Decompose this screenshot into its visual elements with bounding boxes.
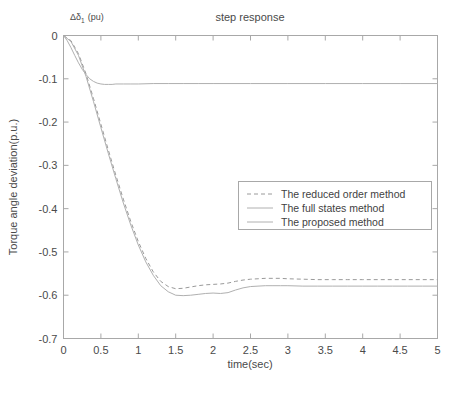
y-axis-tick-labels: 0-0.1-0.2-0.3-0.4-0.5-0.6-0.7 [39,30,58,345]
figure-container: 00.511.522.533.544.55 0-0.1-0.2-0.3-0.4-… [0,0,457,393]
x-tick-label: 0 [60,344,66,356]
series-line-2 [64,36,438,85]
step-response-chart: 00.511.522.533.544.55 0-0.1-0.2-0.3-0.4-… [0,0,457,393]
y-tick-label: -0.7 [39,333,58,345]
x-tick-label: 4.5 [392,344,407,356]
y-tick-label: -0.2 [39,116,58,128]
y-tick-label: 0 [51,30,57,42]
x-tick-label: 0.5 [93,344,108,356]
corner-annotation-subscript: 1 [81,17,85,24]
y-tick-label: -0.6 [39,289,58,301]
corner-annotation-unit: (pu) [88,12,104,22]
x-tick-label: 4 [360,344,366,356]
legend-label-1[interactable]: The full states method [281,202,384,214]
x-tick-label: 2 [210,344,216,356]
legend-label-2[interactable]: The proposed method [281,216,384,228]
series-line-1 [64,36,438,296]
x-tick-label: 1.5 [168,344,183,356]
y-tick-label: -0.5 [39,246,58,258]
series-group [64,36,438,296]
y-axis-corner-annotation: Δδ1(pu) [70,12,104,24]
x-tick-label: 3 [285,344,291,356]
x-tick-label: 2.5 [243,344,258,356]
legend[interactable]: The reduced order methodThe full states … [239,182,432,230]
y-tick-label: -0.3 [39,159,58,171]
y-axis-label: Torque angle deviation(p.u.) [7,119,19,255]
y-tick-label: -0.1 [39,73,58,85]
legend-items[interactable]: The reduced order methodThe full states … [247,188,405,228]
chart-title: step response [215,11,284,23]
legend-label-0[interactable]: The reduced order method [281,188,405,200]
x-tick-label: 3.5 [318,344,333,356]
series-line-0 [64,36,438,289]
x-tick-label: 1 [135,344,141,356]
corner-annotation-symbol: Δδ [70,12,81,22]
x-axis-tick-labels: 00.511.522.533.544.55 [60,344,440,356]
x-tick-label: 5 [434,344,440,356]
y-tick-label: -0.4 [39,203,58,215]
x-axis-label: time(sec) [227,358,272,370]
